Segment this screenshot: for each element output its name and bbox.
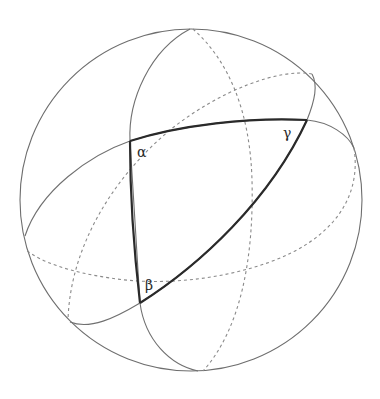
triangle-side-beta-gamma <box>140 120 307 303</box>
spherical-triangle-diagram: α β γ <box>0 0 380 399</box>
great-circle-3-front-arc <box>70 74 315 325</box>
great-circle-1 <box>130 29 252 371</box>
great-circle-1-hidden-arc <box>193 29 252 371</box>
vertex-label-beta: β <box>145 277 153 293</box>
great-circle-2 <box>25 119 355 281</box>
sphere-outline <box>20 29 362 371</box>
vertex-label-gamma: γ <box>283 125 291 141</box>
great-circle-3-hidden-arc <box>68 73 312 320</box>
vertex-label-alpha: α <box>137 144 147 160</box>
great-circle-3 <box>68 73 315 325</box>
great-circle-2-front-arc <box>25 119 354 236</box>
spherical-triangle <box>130 119 307 303</box>
triangle-side-alpha-gamma <box>130 119 307 141</box>
great-circle-1-front-arc <box>130 29 198 371</box>
great-circle-2-hidden-arc <box>25 148 355 281</box>
